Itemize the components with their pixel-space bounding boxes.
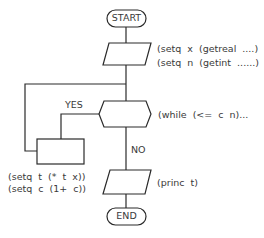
input-code-line-1: (setq x (getreal ....)	[157, 42, 258, 55]
start-label: START	[107, 13, 146, 23]
yes-label: YES	[65, 98, 83, 111]
flowchart-canvas: START END (setq x (getreal ....) (setq n…	[0, 0, 264, 238]
end-label: END	[107, 211, 146, 221]
input-parallelogram	[103, 43, 151, 65]
output-label: (princ t)	[157, 176, 198, 189]
process-box	[37, 139, 84, 164]
output-parallelogram	[103, 170, 151, 194]
process-code-line-2: (setq c (1+ c))	[8, 182, 86, 195]
decision-hexagon	[99, 101, 151, 127]
no-label: NO	[131, 143, 146, 156]
yes-connector	[61, 114, 101, 139]
input-code-line-2: (setq n (getint ......)	[157, 56, 259, 69]
decision-label: (while (<= c n)...	[158, 108, 248, 121]
